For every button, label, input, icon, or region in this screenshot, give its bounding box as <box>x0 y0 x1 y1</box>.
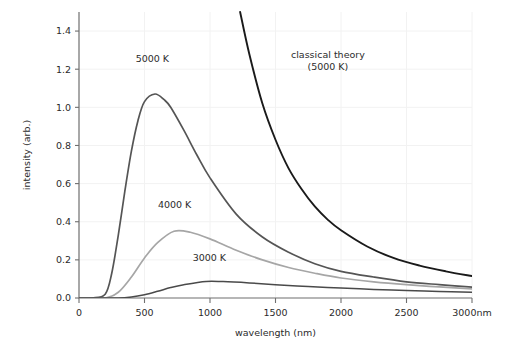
curve-label-5000-k: 5000 K <box>136 53 170 64</box>
x-axis-title: wavelength (nm) <box>235 327 316 338</box>
x-tick-label: 1500 <box>263 307 287 318</box>
curve-label-classical-theory-5000-k-: classical theory(5000 K) <box>291 49 365 72</box>
x-tick-label: 2500 <box>394 307 418 318</box>
y-tick-label: 1.4 <box>56 25 71 36</box>
x-tick-label: 500 <box>135 307 153 318</box>
y-tick-label: 0.4 <box>56 216 71 227</box>
chart-page: 0.00.20.40.60.81.01.21.40500100015002000… <box>0 0 521 351</box>
y-tick-label: 0.8 <box>56 140 71 151</box>
curve-label-3000-k: 3000 K <box>193 252 227 263</box>
x-tick-label: 1000 <box>198 307 222 318</box>
x-tick-label: 3000nm <box>452 307 491 318</box>
y-tick-label: 0.0 <box>56 292 71 303</box>
y-tick-label: 0.2 <box>56 254 71 265</box>
blackbody-spectrum-chart: 0.00.20.40.60.81.01.21.40500100015002000… <box>0 0 521 351</box>
curve-label-4000-k: 4000 K <box>158 199 192 210</box>
axis-titles: wavelength (nm)intensity (arb.) <box>21 120 316 338</box>
x-tick-label: 2000 <box>329 307 353 318</box>
y-tick-label: 0.6 <box>56 178 71 189</box>
y-tick-label: 1.2 <box>56 64 71 75</box>
y-tick-label: 1.0 <box>56 102 71 113</box>
curve-labels: 5000 K4000 K3000 Kclassical theory(5000 … <box>136 49 366 263</box>
tick-marks <box>75 31 472 303</box>
y-axis-title: intensity (arb.) <box>21 120 32 190</box>
x-tick-label: 0 <box>76 307 82 318</box>
